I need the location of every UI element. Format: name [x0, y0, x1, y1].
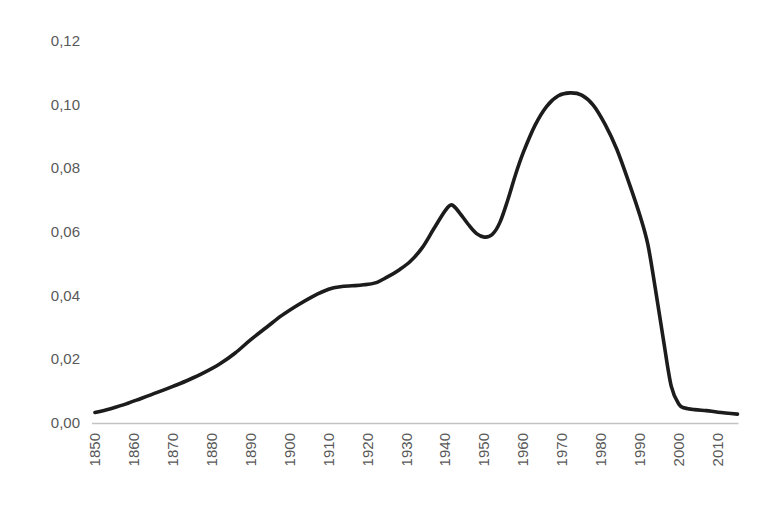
x-tick-label: 2000: [670, 433, 687, 466]
x-tick-label: 1870: [164, 433, 181, 466]
y-tick-label: 0,04: [51, 287, 80, 304]
data-curve: [95, 93, 738, 414]
y-tick-label: 0,12: [51, 32, 80, 49]
x-tick-label: 1910: [320, 433, 337, 466]
chart-figure: 0,000,020,040,060,080,100,12185018601870…: [0, 0, 777, 510]
x-tick-label: 1880: [203, 433, 220, 466]
x-tick-label: 1930: [398, 433, 415, 466]
x-tick-label: 1850: [86, 433, 103, 466]
x-tick-label: 1950: [475, 433, 492, 466]
x-tick-label: 2010: [709, 433, 726, 466]
x-tick-label: 1980: [592, 433, 609, 466]
chart-canvas: 0,000,020,040,060,080,100,12185018601870…: [0, 0, 777, 510]
x-tick-label: 1920: [359, 433, 376, 466]
x-tick-label: 1900: [281, 433, 298, 466]
x-tick-label: 1940: [436, 433, 453, 466]
y-tick-label: 0,10: [51, 96, 80, 113]
y-tick-label: 0,00: [51, 414, 80, 431]
y-tick-label: 0,08: [51, 159, 80, 176]
y-tick-label: 0,06: [51, 223, 80, 240]
x-tick-label: 1970: [553, 433, 570, 466]
y-tick-label: 0,02: [51, 350, 80, 367]
x-tick-label: 1860: [125, 433, 142, 466]
x-tick-label: 1990: [631, 433, 648, 466]
x-tick-label: 1890: [242, 433, 259, 466]
x-tick-label: 1960: [514, 433, 531, 466]
